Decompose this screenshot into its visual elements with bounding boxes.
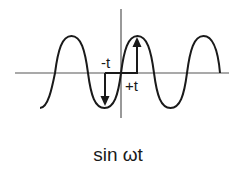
plus-t-label: +t bbox=[125, 77, 139, 94]
caption: sin ωt bbox=[93, 144, 143, 165]
up-arrow-icon bbox=[133, 37, 142, 73]
minus-t-label: -t bbox=[101, 54, 111, 71]
down-arrow-icon bbox=[101, 73, 110, 106]
sine-wave-diagram: -t +t sin ωt bbox=[0, 0, 237, 171]
